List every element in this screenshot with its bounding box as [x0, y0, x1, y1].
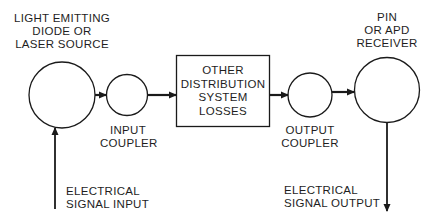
output-coupler-label-line-2: COUPLER — [279, 137, 341, 150]
source-circle — [29, 62, 95, 128]
receiver-circle — [355, 58, 420, 123]
electrical-input-label: ELECTRICAL SIGNAL INPUT — [66, 185, 149, 211]
electrical-input-label-line-1: ELECTRICAL — [66, 185, 149, 198]
distribution-label-line-4: LOSSES — [177, 105, 269, 119]
input-coupler-label: INPUT COUPLER — [100, 124, 156, 150]
electrical-output-label: ELECTRICAL SIGNAL OUTPUT — [284, 184, 380, 210]
receiver-label-line-2: OR APD — [349, 24, 425, 37]
fiber-link-diagram: LIGHT EMITTING DIODE OR LASER SOURCE INP… — [0, 0, 441, 219]
input-coupler-label-line-2: COUPLER — [100, 137, 156, 150]
output-coupler-label-line-1: OUTPUT — [279, 124, 341, 137]
input-coupler-circle — [107, 75, 148, 116]
output-coupler-label: OUTPUT COUPLER — [279, 124, 341, 150]
receiver-label: PIN OR APD RECEIVER — [349, 11, 425, 50]
source-label: LIGHT EMITTING DIODE OR LASER SOURCE — [14, 12, 110, 51]
source-label-line-2: DIODE OR — [14, 25, 110, 38]
distribution-label-line-3: SYSTEM — [177, 91, 269, 105]
electrical-output-label-line-2: SIGNAL OUTPUT — [284, 197, 380, 210]
output-coupler-circle — [288, 73, 332, 117]
distribution-label-line-1: OTHER — [177, 64, 269, 78]
electrical-input-label-line-2: SIGNAL INPUT — [66, 198, 149, 211]
receiver-label-line-1: PIN — [349, 11, 425, 24]
input-coupler-label-line-1: INPUT — [100, 124, 156, 137]
receiver-label-line-3: RECEIVER — [349, 37, 425, 50]
electrical-output-label-line-1: ELECTRICAL — [284, 184, 380, 197]
source-label-line-1: LIGHT EMITTING — [14, 12, 110, 25]
distribution-label-line-2: DISTRIBUTION — [177, 78, 269, 92]
source-label-line-3: LASER SOURCE — [14, 38, 110, 51]
distribution-label: OTHER DISTRIBUTION SYSTEM LOSSES — [177, 64, 269, 118]
